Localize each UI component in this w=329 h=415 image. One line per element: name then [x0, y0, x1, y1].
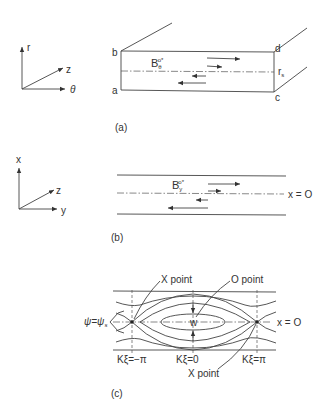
x-point-right-dot	[255, 320, 259, 324]
x-point-left-dot	[130, 320, 134, 324]
axes-b: x z y	[16, 154, 66, 216]
corner-d: d	[275, 43, 281, 54]
corner-b: b	[112, 47, 118, 58]
label-x-point-bottom: X point	[188, 368, 219, 379]
caption-b: (b)	[111, 232, 123, 243]
panel-b: x z y x = O Byo* (b)	[16, 154, 312, 243]
width-label-w: w	[189, 317, 198, 328]
panel-c: w ψ=ψs x = O X point O point X point Kξ=…	[84, 274, 301, 399]
psi-label: ψ=ψs	[84, 316, 107, 328]
caption-c: (c)	[111, 388, 123, 399]
axis-label-z: z	[66, 64, 71, 75]
tick-zero: Kξ=0	[176, 354, 199, 366]
field-label-b-theta: Bθo*	[151, 57, 164, 70]
axis-label-y: y	[61, 205, 66, 216]
tick-minus-pi: Kξ=−π	[117, 354, 147, 366]
label-x-eq-0-c: x = O	[277, 317, 301, 328]
corner-c: c	[275, 92, 280, 103]
axis-label-z: z	[56, 185, 61, 196]
label-x-point-top: X point	[161, 274, 192, 285]
axis-label-x: x	[16, 154, 21, 165]
tick-pi: Kξ=π	[242, 354, 266, 366]
field-label-b-y: Byo*	[172, 179, 185, 192]
label-rs: rs	[278, 66, 284, 78]
axis-label-r: r	[27, 42, 31, 53]
slab-box	[121, 23, 307, 92]
label-x-eq-0: x = O	[288, 189, 312, 200]
panel-a: r z θ b a d c rs Bθo* (a)	[22, 23, 307, 133]
axes-a: r z θ	[22, 42, 76, 95]
label-o-point: O point	[231, 274, 263, 285]
figure: r z θ b a d c rs Bθo* (a)	[0, 0, 329, 415]
corner-a: a	[112, 85, 118, 96]
axis-label-theta: θ	[70, 84, 76, 95]
caption-a: (a)	[115, 122, 127, 133]
field-arrows-a	[178, 58, 240, 83]
